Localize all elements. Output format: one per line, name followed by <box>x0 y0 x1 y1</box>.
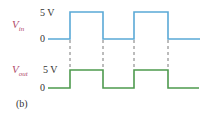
waveform-diagram <box>0 0 214 118</box>
vout-waveform <box>48 70 199 88</box>
dashed-alignment-lines <box>70 40 168 69</box>
vin-waveform <box>48 12 200 39</box>
